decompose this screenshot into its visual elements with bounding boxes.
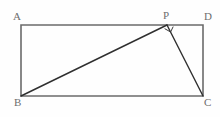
geometry-figure: A P D B C [0,0,220,117]
vertex-label-a: A [13,11,21,22]
vertex-label-b: B [14,97,22,108]
vertex-label-c: C [204,97,212,108]
vertex-label-d: D [204,11,212,22]
vertex-label-p: P [163,10,169,21]
figure-background [0,0,220,117]
geometry-canvas [0,0,220,117]
